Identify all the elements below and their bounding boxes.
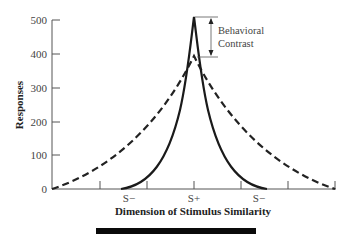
annotation-behavioral: Behavioral [218,25,264,36]
y-tick-label: 300 [31,82,48,94]
x-tick-label-s-minus-left: S− [123,192,135,204]
footer-bar [96,228,256,234]
x-tick-label-s-minus-right: S− [253,192,265,204]
annotation-contrast: Contrast [218,38,254,49]
y-tick-label: 100 [31,149,48,161]
x-axis [52,181,336,189]
y-axis [52,20,60,189]
y-axis-title: Responses [13,80,25,129]
y-tick-label: 0 [42,183,48,195]
y-tick-label: 400 [31,48,48,60]
y-tick-label: 500 [31,14,48,26]
y-tick-label: 200 [31,116,48,128]
generalization-gradient-chart: 500 400 300 200 100 0 Responses S− S+ S−… [0,0,353,234]
x-tick-label-s-plus: S+ [188,192,200,204]
dashed-generalization-curve [52,56,335,189]
x-axis-title: Dimension of Stimulus Similarity [115,205,272,217]
